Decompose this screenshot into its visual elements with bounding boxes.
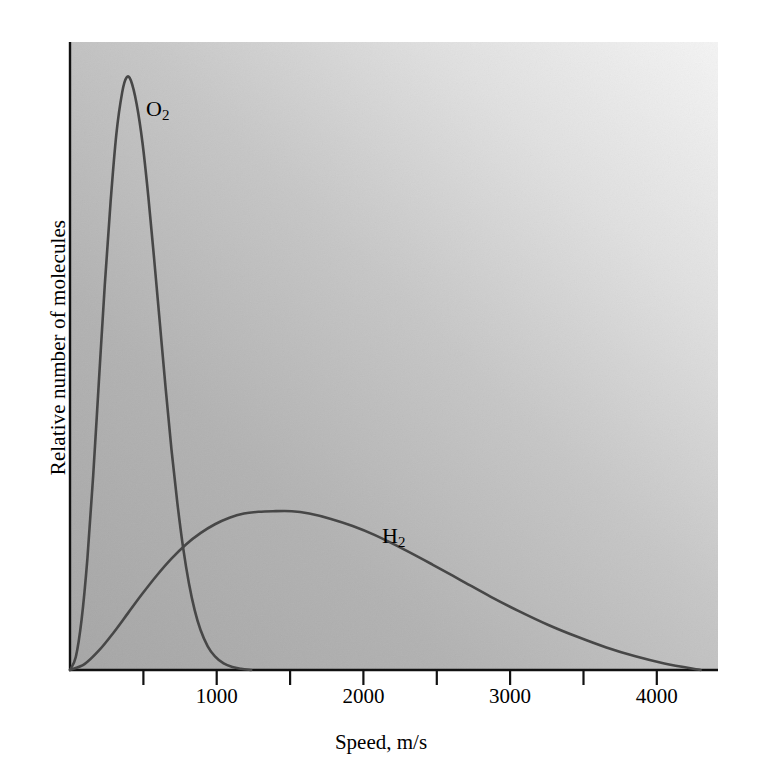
plot-canvas <box>0 0 762 782</box>
x-tick-label-2000: 2000 <box>342 684 384 709</box>
x-axis-ticks <box>143 670 656 685</box>
series-label-h2-element: H <box>382 523 398 548</box>
series-label-o2: O2 <box>146 96 169 124</box>
series-label-h2: H2 <box>382 523 405 551</box>
x-axis-title: Speed, m/s <box>0 730 762 755</box>
x-tick-label-1000: 1000 <box>196 684 238 709</box>
plot-background-grain <box>70 42 718 670</box>
series-label-o2-subscript: 2 <box>162 107 169 123</box>
series-label-h2-subscript: 2 <box>398 534 405 550</box>
x-tick-label-4000: 4000 <box>636 684 678 709</box>
series-label-o2-element: O <box>146 96 162 121</box>
maxwell-boltzmann-speed-distribution-chart: Relative number of molecules Speed, m/s … <box>0 0 762 782</box>
y-axis-title: Relative number of molecules <box>46 138 71 558</box>
x-tick-label-3000: 3000 <box>489 684 531 709</box>
